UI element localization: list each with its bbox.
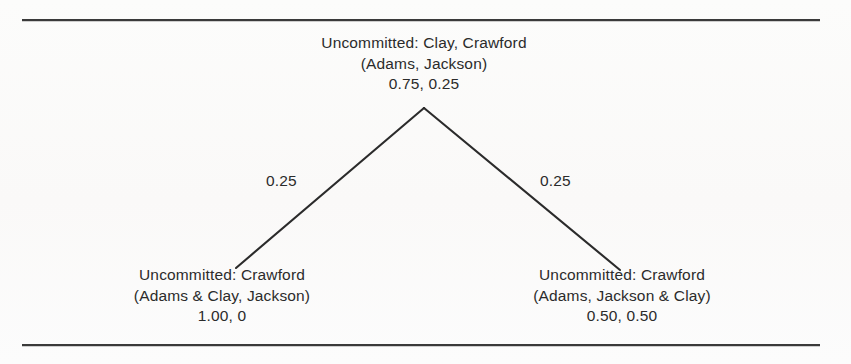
- leaf-right-node: Uncommitted: Crawford (Adams, Jackson & …: [533, 265, 710, 327]
- left-branch-line: [236, 108, 424, 268]
- leaf-left-payoffs: 1.00, 0: [134, 306, 310, 327]
- root-node: Uncommitted: Clay, Crawford (Adams, Jack…: [321, 33, 526, 95]
- top-horizontal-rule: [22, 19, 820, 21]
- right-branch-line: [424, 108, 620, 270]
- right-branch-probability-label: 0.25: [540, 172, 571, 190]
- left-branch-probability-label: 0.25: [266, 172, 297, 190]
- root-node-payoffs: 0.75, 0.25: [321, 74, 526, 95]
- leaf-right-line2: (Adams, Jackson & Clay): [533, 286, 710, 307]
- leaf-left-line1: Uncommitted: Crawford: [134, 265, 310, 286]
- figure-container: Uncommitted: Clay, Crawford (Adams, Jack…: [0, 0, 851, 364]
- leaf-right-line1: Uncommitted: Crawford: [533, 265, 710, 286]
- leaf-right-payoffs: 0.50, 0.50: [533, 306, 710, 327]
- leaf-left-line2: (Adams & Clay, Jackson): [134, 286, 310, 307]
- leaf-left-node: Uncommitted: Crawford (Adams & Clay, Jac…: [134, 265, 310, 327]
- bottom-horizontal-rule: [22, 344, 820, 346]
- root-node-line2: (Adams, Jackson): [321, 54, 526, 75]
- root-node-line1: Uncommitted: Clay, Crawford: [321, 33, 526, 54]
